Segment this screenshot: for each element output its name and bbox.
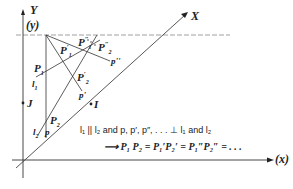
y-axis-label: Y <box>30 4 37 16</box>
caption-parallel-perpendicular: l₁ || l₂ and p, p′, p″, . . . ⊥ l₁ and l… <box>80 126 211 135</box>
point-i-label: I <box>94 99 98 110</box>
y-paren-label: (y) <box>26 19 39 31</box>
point-j-label: J <box>27 98 33 109</box>
point-p1-dprime-label: P″1 <box>78 36 92 50</box>
point-i <box>90 103 93 106</box>
line-l2-label: l2 <box>33 128 39 139</box>
point-p1-prime-label: P′1 <box>60 44 72 58</box>
line-p-prime-label: p' <box>79 91 86 100</box>
y-axis-arrow-icon <box>21 9 25 15</box>
line-p-label: p <box>45 128 50 137</box>
dot-mark <box>94 44 95 45</box>
point-p2-label: P2 <box>50 115 60 128</box>
x-axis-arrow-icon <box>267 158 274 163</box>
point-j <box>22 102 25 105</box>
point-p2-prime-label: P′2 <box>77 71 89 85</box>
x-axis-label: (x) <box>275 153 289 165</box>
point-p1-label: P1 <box>34 63 44 76</box>
diagram-canvas <box>0 0 293 189</box>
x-diagonal-label: X <box>191 10 199 22</box>
line-l1-label: l1 <box>32 80 38 91</box>
line-p-double-prime-label: p'' <box>111 57 121 66</box>
point-p2-dprime-label: P″2 <box>98 41 112 55</box>
caption-equal-distances: ⟶ P₁ P₂ = P₁′P₂′ = P₁″P₂″ = . . . <box>104 142 242 152</box>
